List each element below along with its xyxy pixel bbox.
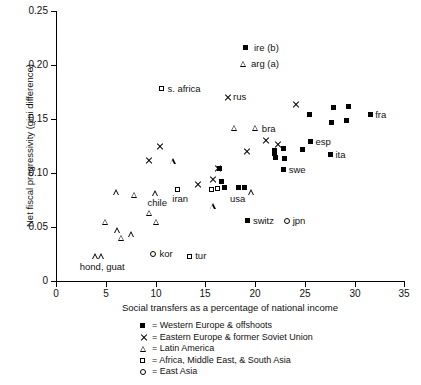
marker-open-triangle-icon — [146, 210, 152, 216]
marker-open-triangle-icon — [140, 346, 146, 352]
point-label: esp — [316, 137, 331, 147]
data-point — [219, 179, 224, 184]
data-point — [243, 148, 250, 155]
x-tick-label-3: 15 — [193, 289, 217, 299]
point-label: hond, guat — [80, 262, 125, 272]
marker-open-triangle-icon — [98, 253, 104, 259]
marker-cross-icon — [243, 148, 250, 155]
x-tick-3 — [205, 282, 206, 287]
marker-open-triangle-icon — [248, 189, 254, 195]
data-point — [245, 218, 250, 223]
y-tick-label-0: 0 — [14, 276, 48, 286]
data-point — [159, 86, 164, 91]
legend-label: = Eastern Europe & former Soviet Union — [152, 332, 313, 344]
marker-cross-icon — [274, 141, 281, 148]
marker-filled-square-icon — [245, 218, 250, 223]
marker-open-triangle-icon — [170, 158, 176, 164]
marker-open-square-icon — [187, 254, 192, 259]
marker-filled-square-icon — [242, 185, 247, 190]
data-point — [300, 147, 305, 152]
x-tick-label-1: 5 — [94, 289, 118, 299]
marker-filled-square-icon — [328, 152, 333, 157]
data-point — [150, 251, 156, 257]
legend-marker — [140, 323, 152, 328]
data-point — [156, 143, 163, 150]
marker-filled-square-icon — [236, 185, 241, 190]
point-label: jpn — [293, 216, 306, 226]
marker-cross-icon — [209, 176, 216, 183]
point-label: s. africa — [167, 84, 200, 94]
x-tick-label-2: 10 — [144, 289, 168, 299]
annotation-marker — [240, 61, 251, 67]
data-point — [222, 185, 227, 190]
data-point — [131, 192, 137, 198]
x-axis-line — [56, 281, 405, 282]
data-point — [368, 112, 373, 117]
y-axis-line — [56, 11, 57, 282]
x-tick-0 — [56, 282, 57, 287]
data-point — [329, 120, 334, 125]
marker-filled-square-icon — [300, 147, 305, 152]
x-tick-label-7: 35 — [392, 289, 416, 299]
data-point — [328, 152, 333, 157]
marker-open-triangle-icon — [252, 125, 258, 131]
data-point — [102, 219, 108, 225]
data-point — [307, 112, 312, 117]
marker-open-triangle-icon — [231, 125, 237, 131]
point-label: kor — [159, 249, 172, 259]
data-point — [175, 187, 180, 192]
marker-filled-square-icon — [368, 112, 373, 117]
chart-annotation: arg (a) — [240, 58, 279, 69]
marker-open-square-icon — [209, 187, 214, 192]
point-label: swe — [289, 165, 306, 175]
marker-open-triangle-icon — [114, 227, 120, 233]
data-point — [170, 158, 176, 164]
marker-filled-square-icon — [222, 185, 227, 190]
legend-item: = Africa, Middle East, & South Asia — [140, 355, 313, 367]
data-point — [118, 235, 124, 241]
marker-open-triangle-icon — [128, 231, 134, 237]
legend-item: = Western Europe & offshoots — [140, 320, 313, 332]
data-point — [187, 254, 192, 259]
marker-filled-square-icon — [243, 45, 248, 50]
x-axis-label: Social transfers as a percentage of nati… — [56, 302, 404, 313]
marker-filled-square-icon — [308, 139, 313, 144]
data-point — [281, 146, 286, 151]
data-point — [153, 219, 159, 225]
chart-annotation: ire (b) — [243, 42, 279, 53]
data-point — [282, 156, 287, 161]
point-label: ita — [335, 150, 345, 160]
data-point — [145, 157, 152, 164]
marker-filled-square-icon — [281, 167, 286, 172]
x-tick-1 — [106, 282, 107, 287]
marker-open-square-icon — [159, 86, 164, 91]
point-label: chile — [147, 198, 167, 208]
legend-item: = East Asia — [140, 366, 313, 378]
marker-open-triangle-icon — [102, 219, 108, 225]
marker-cross-icon — [262, 137, 269, 144]
data-point — [128, 231, 134, 237]
data-point — [236, 185, 241, 190]
data-point — [248, 189, 254, 195]
data-point — [242, 185, 247, 190]
x-tick-6 — [355, 282, 356, 287]
x-tick-label-0: 0 — [44, 289, 68, 299]
legend-marker — [140, 334, 152, 341]
scatter-plot-figure: 0 0.05 0.10 0.15 0.20 0.25 0 5 10 15 20 … — [0, 0, 421, 385]
data-point — [231, 125, 237, 131]
marker-filled-square-icon — [346, 104, 351, 109]
point-label: iran — [172, 194, 188, 204]
marker-cross-icon — [224, 94, 231, 101]
y-tick-label-5: 0.25 — [14, 6, 48, 16]
marker-filled-square-icon — [140, 323, 145, 328]
data-point — [274, 141, 281, 148]
marker-open-square-icon — [175, 187, 180, 192]
annotation-marker — [243, 45, 254, 50]
marker-filled-square-icon — [331, 105, 336, 110]
legend-item: = Eastern Europe & former Soviet Union — [140, 332, 313, 344]
annotation-text: ire (b) — [254, 42, 279, 53]
point-label: rus — [233, 92, 246, 102]
marker-cross-icon — [140, 334, 147, 341]
marker-filled-square-icon — [329, 120, 334, 125]
legend: = Western Europe & offshoots= Eastern Eu… — [140, 320, 313, 378]
